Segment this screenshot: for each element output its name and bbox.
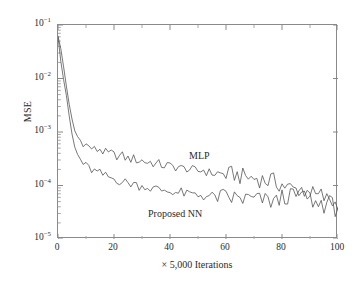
series-layer bbox=[58, 36, 338, 217]
x-axis-tick-label: 80 bbox=[261, 242, 301, 252]
chart-figure: MSE 10−110−210−310−410−5 020406080100 ML… bbox=[0, 0, 361, 285]
x-axis-tick-label: 60 bbox=[205, 242, 245, 252]
y-axis-tick-label: 10−4 bbox=[5, 179, 51, 189]
series-annotation-mlp: MLP bbox=[189, 150, 210, 161]
x-axis-tick-label: 20 bbox=[93, 242, 133, 252]
x-axis-label: × 5,000 Iterations bbox=[57, 259, 337, 270]
y-axis-tick-label: 10−2 bbox=[5, 72, 51, 82]
y-axis-tick-label: 10−1 bbox=[5, 18, 51, 28]
x-axis-major-ticks bbox=[58, 25, 338, 239]
x-axis-tick-label: 0 bbox=[37, 242, 77, 252]
plot-canvas bbox=[58, 25, 338, 239]
x-axis-tick-label: 100 bbox=[317, 242, 357, 252]
series-annotation-proposed-nn: Proposed NN bbox=[148, 208, 202, 219]
y-axis-major-ticks bbox=[58, 25, 338, 239]
x-axis-minor-ticks bbox=[86, 25, 310, 239]
y-axis-tick-label: 10−5 bbox=[5, 232, 51, 242]
plot-area bbox=[57, 24, 337, 238]
y-axis-tick-label: 10−3 bbox=[5, 125, 51, 135]
x-axis-tick-label: 40 bbox=[149, 242, 189, 252]
